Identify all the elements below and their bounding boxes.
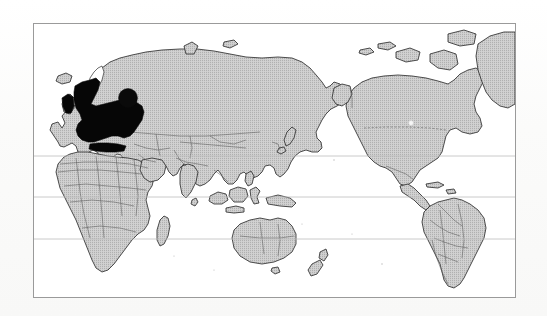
scan-speckle — [333, 159, 334, 160]
study-site-marker — [119, 89, 138, 108]
scan-speckle — [301, 223, 302, 224]
landmass-borneo — [229, 187, 248, 202]
landmass-hispaniola — [446, 189, 456, 194]
scan-speckle — [303, 143, 304, 144]
world-map-figure — [33, 23, 516, 298]
scan-speckle — [381, 263, 382, 264]
landmass-java — [226, 206, 244, 213]
secondary-site-marker — [409, 121, 414, 126]
world-map-canvas — [34, 24, 515, 297]
scan-speckle — [213, 269, 214, 270]
scan-speckle — [351, 233, 352, 234]
page-root: Black-and-white scanned world map with a… — [0, 0, 547, 316]
scan-speckle — [173, 255, 174, 256]
